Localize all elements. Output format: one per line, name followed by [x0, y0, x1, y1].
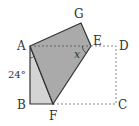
label-b: B [17, 98, 26, 112]
angle-label-24: 24° [8, 69, 26, 80]
label-f: F [49, 109, 57, 123]
label-d: D [119, 39, 129, 53]
unknown-angle-x: x [74, 48, 81, 61]
label-c: C [118, 98, 127, 112]
folded-rectangle-diagram: G E D A B C F 24° x [0, 0, 139, 126]
label-a: A [16, 39, 26, 53]
label-g: G [74, 7, 84, 21]
label-e: E [93, 34, 102, 48]
